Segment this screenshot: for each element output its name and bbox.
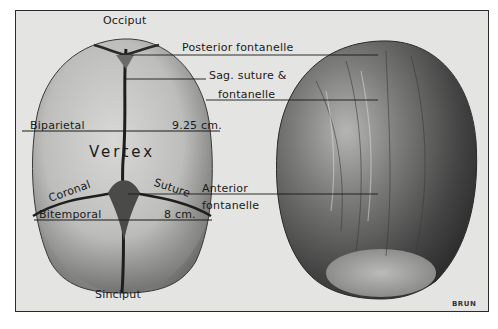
illustration-plate: Occiput Posterior fontanelle Sag. suture… bbox=[15, 10, 489, 312]
label-vertex: Vertex bbox=[89, 145, 155, 160]
label-biparietal-measure: 9.25 cm. bbox=[172, 120, 222, 131]
label-bitemporal-measure: 8 cm. bbox=[164, 209, 196, 220]
artist-credit: BRUN bbox=[452, 301, 476, 308]
label-sag-fontanelle: fontanelle bbox=[218, 89, 275, 100]
label-occiput: Occiput bbox=[103, 15, 146, 26]
skull-top-view bbox=[22, 39, 220, 293]
label-anterior-fontanelle: fontanelle bbox=[202, 200, 259, 211]
hair-covered-head bbox=[276, 41, 476, 299]
label-posterior-fontanelle: Posterior fontanelle bbox=[182, 42, 293, 53]
label-sag-suture: Sag. suture & bbox=[209, 70, 286, 81]
label-bitemporal: Bitemporal bbox=[39, 209, 101, 220]
label-anterior: Anterior bbox=[202, 183, 248, 194]
skull-illustration bbox=[16, 11, 489, 312]
label-biparietal: Biparietal bbox=[30, 120, 85, 131]
label-sinciput: Sinciput bbox=[95, 289, 141, 300]
